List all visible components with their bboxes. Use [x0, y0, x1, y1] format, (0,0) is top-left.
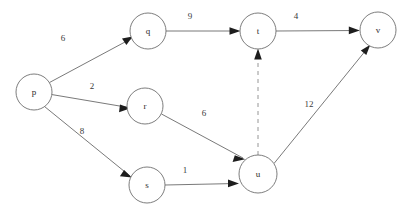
node-r[interactable]: r [127, 88, 163, 124]
edge-q-t-arrowhead [230, 27, 241, 35]
graph-diagram-canvas: 6 2 8 9 [0, 0, 414, 218]
edge-u-t-dashed[interactable] [254, 49, 262, 156]
edge-q-t-weight: 9 [188, 11, 193, 21]
node-s[interactable]: s [129, 167, 165, 203]
edge-t-v-weight: 4 [294, 11, 299, 21]
node-v[interactable]: v [360, 12, 396, 48]
edge-u-v-weight: 12 [305, 99, 314, 109]
edge-r-u-line [162, 114, 244, 158]
edge-s-u-weight: 1 [183, 165, 188, 175]
edge-group: 6 2 8 9 [45, 11, 371, 187]
node-u-label: u [256, 169, 261, 179]
edge-u-v-line [274, 47, 369, 164]
edge-t-v-line [276, 31, 357, 32]
edge-r-u[interactable]: 6 [162, 108, 246, 162]
edge-t-v-arrowhead [349, 27, 360, 35]
edge-p-r-weight: 2 [90, 81, 95, 91]
edge-p-q[interactable]: 6 [50, 33, 133, 83]
node-q-label: q [146, 26, 151, 36]
node-r-label: r [144, 101, 147, 111]
edge-p-s-weight: 8 [80, 126, 85, 136]
edge-p-q-weight: 6 [61, 33, 66, 43]
edge-p-q-line [50, 39, 132, 83]
node-v-label: v [376, 25, 381, 35]
node-p[interactable]: p [16, 74, 52, 110]
edge-s-u-line [165, 184, 236, 186]
node-s-label: s [145, 180, 149, 190]
edge-t-v[interactable]: 4 [276, 11, 360, 34]
node-t[interactable]: t [240, 13, 276, 49]
edge-r-u-weight: 6 [202, 108, 207, 118]
edge-u-t-arrowhead [254, 49, 262, 60]
edge-p-s-line [45, 107, 131, 177]
edge-s-u[interactable]: 1 [165, 165, 239, 187]
edge-p-s-arrowhead [120, 170, 132, 178]
edge-q-t[interactable]: 9 [166, 11, 241, 35]
edge-s-u-arrowhead [228, 180, 239, 188]
node-p-label: p [32, 87, 37, 97]
edge-p-r-line [52, 95, 129, 108]
edge-p-r[interactable]: 2 [52, 81, 131, 112]
edge-p-s[interactable]: 8 [45, 107, 132, 178]
edge-u-v-arrowhead [361, 45, 371, 55]
edge-u-v[interactable]: 12 [274, 45, 370, 164]
node-u[interactable]: u [239, 155, 277, 193]
node-q[interactable]: q [130, 13, 166, 49]
graph-svg: 6 2 8 9 [0, 0, 414, 218]
